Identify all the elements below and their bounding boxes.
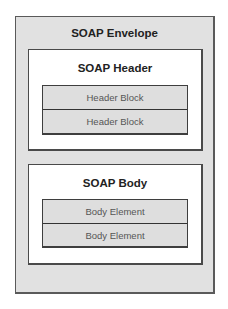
body-element: Body Element xyxy=(43,200,187,224)
header-title: SOAP Header xyxy=(29,62,201,74)
body-elements: Body Element Body Element xyxy=(42,199,188,248)
envelope-title: SOAP Envelope xyxy=(16,27,213,39)
body-title: SOAP Body xyxy=(29,177,201,189)
header-blocks: Header Block Header Block xyxy=(42,85,188,135)
body-element: Body Element xyxy=(43,223,187,248)
header-block: Header Block xyxy=(43,86,187,110)
header-block: Header Block xyxy=(43,109,187,134)
